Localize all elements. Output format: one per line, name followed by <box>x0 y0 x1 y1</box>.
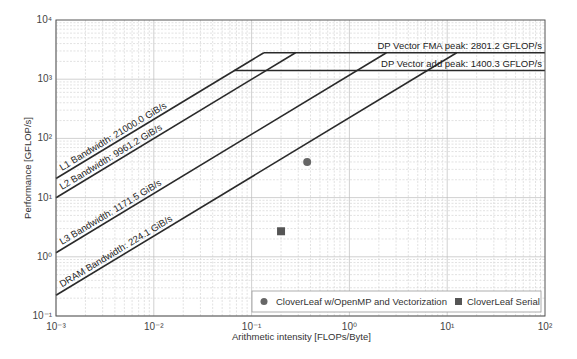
roof-lines <box>56 53 545 296</box>
y-tick-label: 10³ <box>38 73 53 84</box>
y-tick-label: 10⁴ <box>37 14 52 25</box>
x-tick-label: 10⁻³ <box>46 321 66 332</box>
data-point-circle <box>303 158 311 166</box>
y-tick-label: 10⁻¹ <box>33 310 53 321</box>
y-axis-ticks: 10⁻¹10⁰10¹10²10³10⁴ <box>33 14 53 321</box>
compute-roof-label: DP Vector FMA peak: 2801.2 GFLOP/s <box>377 40 542 51</box>
y-tick-label: 10¹ <box>38 192 53 203</box>
legend-label: CloverLeaf Serial <box>467 296 540 307</box>
legend: CloverLeaf w/OpenMP and VectorizationClo… <box>252 291 541 312</box>
data-point-square <box>277 227 285 235</box>
bandwidth-roof-label: DRAM Bandwidth: 224.1 GiB/s <box>57 213 174 290</box>
roof-labels: L1 Bandwidth: 21000.0 GiB/sL2 Bandwidth:… <box>57 40 542 290</box>
x-tick-label: 10¹ <box>440 321 455 332</box>
compute-roof-label: DP Vector add peak: 1400.3 GFLOP/s <box>381 58 542 69</box>
y-tick-label: 10² <box>38 132 53 143</box>
legend-label: CloverLeaf w/OpenMP and Vectorization <box>276 296 447 307</box>
legend-square-icon <box>455 298 462 305</box>
x-tick-label: 10⁻² <box>144 321 164 332</box>
bandwidth-roof-line <box>56 53 296 198</box>
legend-circle-icon <box>261 298 268 305</box>
bandwidth-roof-line <box>56 53 264 179</box>
x-tick-label: 10² <box>538 321 553 332</box>
bandwidth-roof-line <box>56 53 457 296</box>
y-axis-label: Performance [GFLOP/s] <box>22 117 33 219</box>
roofline-chart: L1 Bandwidth: 21000.0 GiB/sL2 Bandwidth:… <box>0 0 577 359</box>
y-tick-label: 10⁰ <box>37 251 52 262</box>
x-axis-label: Arithmetic intensity [FLOPs/Byte] <box>232 331 371 342</box>
